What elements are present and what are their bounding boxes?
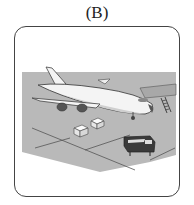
- airport-illustration: [0, 0, 194, 205]
